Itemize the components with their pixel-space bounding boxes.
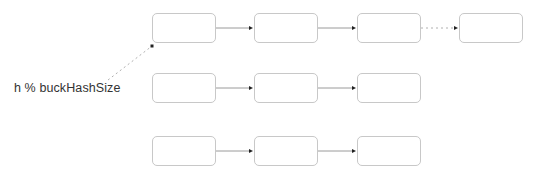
arrowhead-icon [352, 149, 356, 153]
bucket-0-node-1 [254, 13, 318, 43]
bucket-0-node-2 [357, 13, 421, 43]
arrowhead-icon [454, 26, 458, 30]
arrowhead-icon [249, 149, 253, 153]
bucket-2-node-2 [357, 136, 421, 166]
bucket-2-node-1 [254, 136, 318, 166]
bucket-2-node-0 [152, 136, 216, 166]
hash-pointer-edge [108, 46, 152, 80]
arrowhead-icon [249, 86, 253, 90]
bucket-1-node-0 [152, 73, 216, 103]
hash-index-label: h % buckHashSize [14, 81, 121, 95]
arrowhead-icon [352, 86, 356, 90]
bucket-1-node-2 [357, 73, 421, 103]
bucket-1-node-1 [254, 73, 318, 103]
bucket-0-node-0 [152, 13, 216, 43]
arrowhead-icon [249, 26, 253, 30]
bucket-0-node-3 [459, 13, 523, 43]
hash-bucket-diagram: h % buckHashSize [0, 0, 534, 181]
arrowhead-icon [352, 26, 356, 30]
pointer-arrowhead-icon [151, 45, 154, 48]
